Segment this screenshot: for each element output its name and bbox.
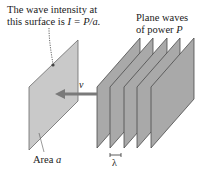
plane-waves-power: P (176, 24, 182, 35)
intensity-formula: I = P/a. (67, 16, 100, 27)
area-prefix: Area (33, 154, 56, 165)
wavelength-label: λ (112, 157, 117, 169)
plane-waves-prefix: of power (136, 24, 176, 35)
plane-waves-caption-line2: of power P (136, 24, 183, 36)
intensity-caption-line2: this surface is I = P/a. (7, 16, 100, 28)
wave-intensity-diagram: The wave intensity at this surface is I … (0, 0, 206, 169)
velocity-label: v (79, 79, 83, 91)
area-label: Area a (33, 154, 61, 166)
intensity-caption-line1: The wave intensity at (7, 4, 97, 16)
plane-waves-stack (97, 38, 194, 148)
plane-waves-caption-line1: Plane waves (136, 12, 188, 24)
intensity-pointer-dot (51, 63, 54, 66)
intensity-pointer-dotted (49, 28, 53, 64)
area-symbol: a (56, 154, 61, 165)
intensity-caption-prefix: this surface is (7, 16, 67, 27)
